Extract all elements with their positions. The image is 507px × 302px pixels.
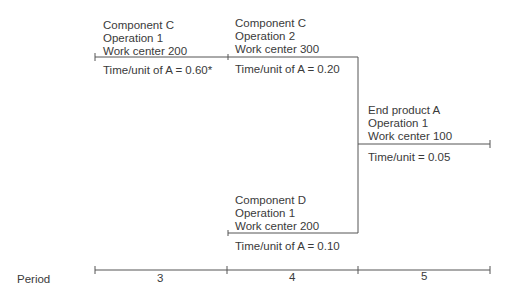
operation: Operation 2 [235,30,319,43]
operation: Operation 1 [103,32,187,45]
work-center: Work center 200 [235,220,319,233]
part-name: Component C [235,17,319,30]
work-center: Work center 100 [368,130,452,143]
operation: Operation 1 [235,207,319,220]
end-product-a-label: End product A Operation 1 Work center 10… [368,104,452,143]
operation: Operation 1 [368,117,452,130]
component-c-op1-label: Component C Operation 1 Work center 200 [103,19,187,58]
part-name: End product A [368,104,452,117]
end-product-a-time: Time/unit = 0.05 [368,151,450,164]
period-3: 3 [157,272,163,285]
part-name: Component C [103,19,187,32]
component-d-label: Component D Operation 1 Work center 200 [235,194,319,233]
part-name: Component D [235,194,319,207]
component-c-op2-time: Time/unit of A = 0.20 [235,63,340,76]
component-c-op2-label: Component C Operation 2 Work center 300 [235,17,319,56]
period-5: 5 [421,270,427,283]
work-center: Work center 300 [235,43,319,56]
period-4: 4 [289,271,295,284]
component-c-op1-time: Time/unit of A = 0.60* [103,64,212,77]
period-axis-label: Period [17,273,50,286]
work-center: Work center 200 [103,45,187,58]
component-d-time: Time/unit of A = 0.10 [235,240,340,253]
